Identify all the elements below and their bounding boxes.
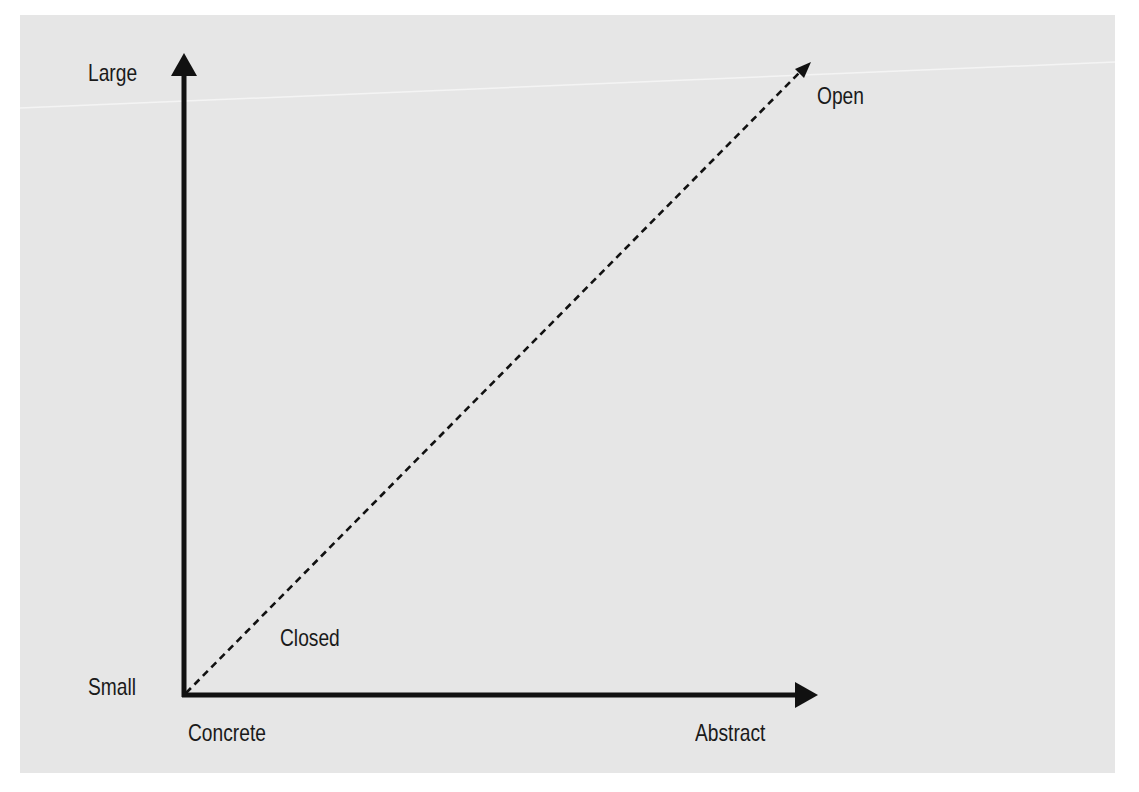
label-abstract: Abstract xyxy=(695,721,765,745)
label-open: Open xyxy=(817,84,864,108)
arrow-up-icon xyxy=(171,53,197,76)
y-axis xyxy=(171,53,197,697)
label-closed: Closed xyxy=(280,626,340,650)
label-small: Small xyxy=(88,675,136,699)
diagonal-dashed-arrow xyxy=(186,62,811,693)
label-concrete: Concrete xyxy=(188,721,266,745)
x-axis xyxy=(182,682,818,708)
concept-diagram xyxy=(0,0,1139,792)
arrow-right-icon xyxy=(795,682,818,708)
label-large: Large xyxy=(88,61,137,85)
